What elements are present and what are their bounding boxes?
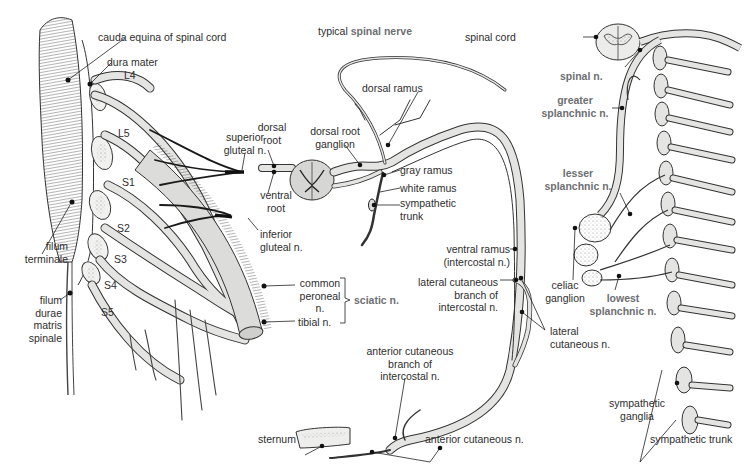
label-lesser-splanchnic: lesser splanchnic n. — [538, 167, 618, 192]
label-tibial: tibial n. — [298, 316, 331, 329]
label-S4: S4 — [104, 279, 117, 292]
label-dorsal-ramus: dorsal ramus — [362, 82, 423, 95]
label-S3: S3 — [114, 253, 127, 266]
label-anterior-cutaneous-branch: anterior cutaneous branch of intercostal… — [360, 345, 460, 383]
title-prefix: typical — [318, 25, 351, 37]
label-dorsal-root: dorsal root — [250, 121, 294, 146]
label-sciatic: sciatic n. — [354, 294, 399, 307]
label-inferior-gluteal: inferior gluteal n. — [260, 228, 303, 253]
label-S2: S2 — [117, 222, 130, 235]
label-lowest-splanchnic: lowest splanchnic n. — [583, 292, 663, 317]
label-spinal-cord: spinal cord — [465, 31, 516, 44]
diagram-title: typical spinal nerve — [318, 25, 412, 38]
title-emphasis: spinal nerve — [351, 25, 412, 37]
label-dura-mater: dura mater — [107, 56, 158, 69]
label-anterior-cutaneous-n: anterior cutaneous n. — [425, 433, 524, 446]
label-lateral-cutaneous-n: lateral cutaneous n. — [550, 325, 610, 350]
label-white-ramus: white ramus — [400, 182, 457, 195]
label-S5: S5 — [101, 306, 114, 319]
label-sympathetic-trunk: sympathetic trunk — [650, 433, 732, 446]
label-sympathetic-trunk-mid: sympathetic trunk — [400, 197, 456, 222]
label-spinal-n: spinal n. — [560, 70, 603, 83]
label-lateral-cutaneous-branch: lateral cutaneous branch of intercostal … — [400, 276, 498, 314]
label-greater-splanchnic: greater splanchnic n. — [535, 94, 615, 119]
label-common-peroneal: common peroneal n. — [295, 277, 345, 315]
label-gray-ramus: gray ramus — [400, 164, 453, 177]
label-S1: S1 — [122, 176, 135, 189]
label-cauda-equina: cauda equina of spinal cord — [98, 31, 226, 44]
label-sternum: sternum — [258, 433, 296, 446]
label-filum-durae: filum durae matris spinale — [6, 294, 62, 344]
label-L4: L4 — [124, 69, 136, 82]
label-L5: L5 — [118, 127, 130, 140]
label-ventral-root: ventral root — [254, 189, 298, 214]
label-ventral-ramus: ventral ramus (intercostal n.) — [420, 243, 510, 268]
label-filum-terminale: filum terminale — [12, 240, 68, 265]
label-sympathetic-ganglia: sympathetic ganglia — [601, 397, 673, 422]
label-dorsal-root-ganglion: dorsal root ganglion — [295, 125, 375, 150]
sacral-plexus-illustration — [39, 18, 350, 420]
